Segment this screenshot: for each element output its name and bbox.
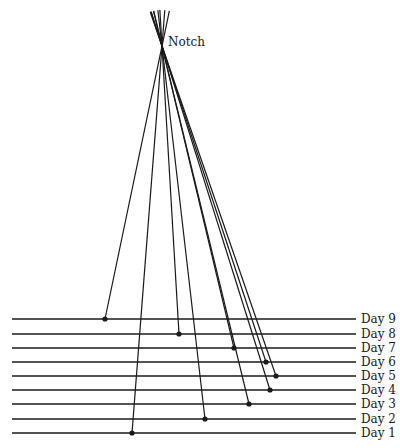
day-dot (202, 416, 207, 421)
notch-day-diagram: Day 9Day 8Day 7Day 6Day 5Day 4Day 3Day 2… (0, 0, 400, 448)
day-labels: Day 9Day 8Day 7Day 6Day 5Day 4Day 3Day 2… (361, 312, 396, 440)
day-label: Day 1 (361, 426, 396, 440)
day-label: Day 9 (361, 312, 396, 326)
notch-ray (158, 10, 205, 419)
notch-ray (151, 12, 270, 390)
day-label: Day 7 (361, 341, 396, 355)
day-dot (231, 345, 236, 350)
day-lines (12, 319, 356, 433)
notch-ray (153, 11, 249, 404)
notch-ray (150, 12, 276, 376)
day-dot (102, 316, 107, 321)
day-dot (129, 430, 134, 435)
day-label: Day 6 (361, 355, 396, 369)
day-dot (263, 359, 268, 364)
notch-ray (132, 10, 165, 433)
day-dot (176, 331, 181, 336)
day-dot (273, 373, 278, 378)
day-label: Day 3 (361, 397, 396, 411)
day-label: Day 4 (361, 383, 396, 397)
diagram-canvas: Day 9Day 8Day 7Day 6Day 5Day 4Day 3Day 2… (0, 0, 400, 448)
notch-rays (105, 10, 276, 433)
day-label: Day 2 (361, 412, 396, 426)
day-label: Day 5 (361, 369, 396, 383)
notch-label: Notch (168, 35, 205, 49)
day-dot (267, 387, 272, 392)
notch-ray (105, 11, 169, 319)
day-label: Day 8 (361, 327, 396, 341)
day-dot (246, 401, 251, 406)
